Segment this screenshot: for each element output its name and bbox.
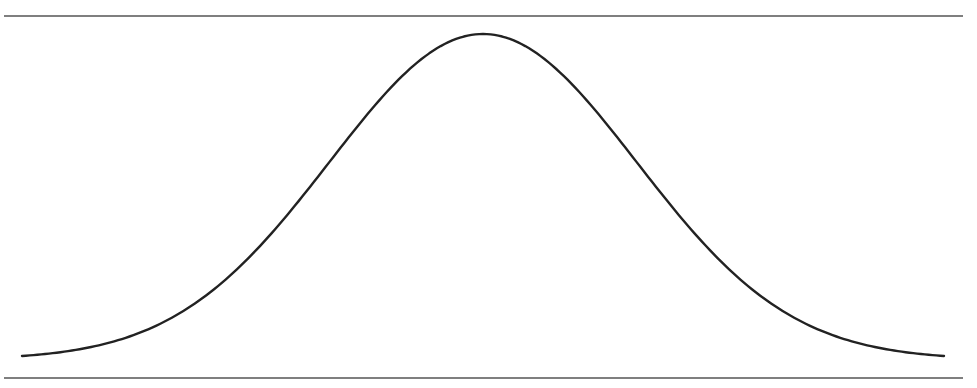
normal-distribution-curve (22, 34, 944, 356)
bell-curve-chart (0, 0, 977, 388)
